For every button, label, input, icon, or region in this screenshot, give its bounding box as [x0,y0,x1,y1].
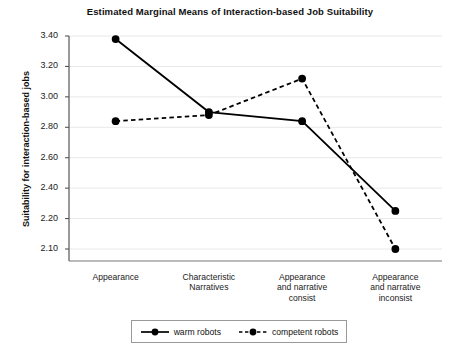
y-tick-label: 2.10 [18,244,58,253]
data-point-marker [298,117,306,125]
y-tick-label: 2.80 [18,122,58,131]
axis-lines [69,36,442,261]
x-tick-label: Appearanceand narrativeinconsist [349,272,441,303]
y-tick-label: 2.60 [18,153,58,162]
data-point-marker [112,35,120,43]
chart-container: Estimated Marginal Means of Interaction-… [0,0,460,344]
x-tick-label: Appearance [70,272,162,282]
y-tick-label: 2.40 [18,183,58,192]
legend-swatch-solid-icon [140,326,170,338]
x-tick-label: CharacteristicNarratives [163,272,255,293]
series-line-warm-robots [116,39,396,211]
gridlines [69,36,442,249]
y-tick-label: 3.00 [18,92,58,101]
legend-item-warm-robots: warm robots [140,326,221,338]
legend-label-competent-robots: competent robots [272,327,338,337]
data-point-marker [298,75,306,83]
legend: warm robots competent robots [131,320,347,343]
data-point-marker [391,245,399,253]
x-tick-label: Appearanceand narrativeconsist [256,272,348,303]
legend-swatch-dashed-icon [238,326,268,338]
series-line-competent-robots [116,79,396,249]
y-tick-label: 3.40 [18,31,58,40]
data-point-marker [112,117,120,125]
legend-label-warm-robots: warm robots [174,327,221,337]
y-tick-label: 2.20 [18,214,58,223]
legend-item-competent-robots: competent robots [238,326,338,338]
data-point-marker [205,111,213,119]
y-tick-label: 3.20 [18,61,58,70]
data-series-layer [112,35,400,253]
data-point-marker [391,207,399,215]
